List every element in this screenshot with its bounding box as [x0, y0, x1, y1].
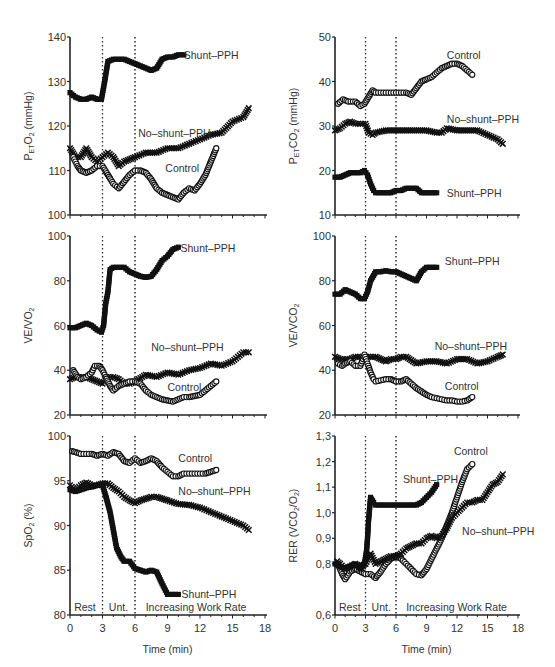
x-tick-label: 3 [99, 622, 105, 634]
phase-label: Unt. [109, 601, 128, 613]
series-label: Shunt–PPH [182, 588, 237, 600]
chart-panel-ve-vo2: 20406080100VE/VO2Shunt–PPHNo–shunt–PPHCo… [22, 230, 267, 421]
series-label: Shunt–PPH [184, 49, 239, 61]
x-axis-title: Time (min) [402, 643, 452, 655]
y-axis-title: PETCO2 (mmHg) [287, 88, 300, 164]
y-tick-label: 1,1 [316, 481, 331, 493]
series-label: No–shunt–PPH [435, 340, 507, 352]
y-tick-label: 40 [319, 364, 331, 376]
y-axis-title: VE/VCO2 [287, 304, 300, 348]
y-axis-title: SpO2 (%) [22, 503, 35, 547]
series-label: Shunt–PPH [447, 187, 502, 199]
series-label: No–shunt–PPH [138, 127, 210, 139]
series-label: No–shunt–PPH [462, 525, 534, 537]
series-label: Control [168, 381, 202, 393]
y-tick-label: 30 [319, 120, 331, 132]
series-label: Shunt–PPH [445, 255, 500, 267]
series-shunt-pph [332, 265, 439, 302]
x-tick-label: 9 [164, 622, 170, 634]
series-label: Control [178, 452, 212, 464]
x-tick-label: 12 [194, 622, 206, 634]
y-tick-label: 80 [319, 275, 331, 287]
phase-label: Rest [74, 601, 96, 613]
y-tick-label: 140 [48, 31, 66, 43]
y-tick-label: 60 [54, 320, 66, 332]
y-tick-label: 90 [54, 520, 66, 532]
x-tick-label: 15 [481, 622, 493, 634]
y-tick-label: 60 [319, 320, 331, 332]
x-tick-label: 18 [259, 622, 271, 634]
chart-panel-pet-co2: 1020304050PETCO2 (mmHg)ControlNo–shunt–P… [287, 31, 520, 221]
x-tick-label: 0 [67, 622, 73, 634]
series-no-shunt-pph [334, 472, 505, 572]
x-tick-label: 6 [132, 622, 138, 634]
series-shunt-pph [332, 168, 439, 195]
x-tick-label: 0 [332, 622, 338, 634]
y-tick-label: 100 [48, 430, 66, 442]
y-tick-label: 1,3 [316, 430, 331, 442]
y-tick-label: 40 [319, 76, 331, 88]
y-tick-label: 80 [54, 609, 66, 621]
series-label: Shunt–PPH [403, 473, 458, 485]
series-label: Control [447, 49, 481, 61]
chart-panel-ve-vco2: 20406080100VE/VCO2Shunt–PPHNo–shunt–PPHC… [287, 230, 520, 421]
phase-label: Unt. [372, 601, 391, 613]
y-tick-label: 120 [48, 120, 66, 132]
y-tick-label: 100 [48, 209, 66, 221]
chart-panel-rer: 0,60,80,91,01,11,21,30369121518Time (min… [287, 430, 534, 655]
y-tick-label: 100 [313, 230, 331, 242]
y-tick-label: 10 [319, 209, 331, 221]
y-tick-label: 1,2 [316, 456, 331, 468]
phase-label: Increasing Work Rate [406, 601, 507, 613]
series-label: No–shunt–PPH [447, 113, 519, 125]
y-tick-label: 20 [319, 409, 331, 421]
x-tick-label: 3 [362, 622, 368, 634]
series-control [335, 61, 474, 108]
y-tick-label: 1,0 [316, 507, 331, 519]
series-label: Control [454, 445, 488, 457]
chart-panel-pet-o2: 100110120130140PETO2 (mmHg)Shunt–PPHNo–s… [22, 31, 267, 221]
series-label: No–shunt–PPH [178, 485, 250, 497]
x-tick-label: 9 [423, 622, 429, 634]
x-tick-label: 12 [451, 622, 463, 634]
series-label: Control [165, 162, 199, 174]
y-tick-label: 20 [319, 165, 331, 177]
y-tick-label: 0,8 [316, 558, 331, 570]
y-tick-label: 85 [54, 564, 66, 576]
x-axis-title: Time (min) [143, 643, 193, 655]
y-axis-title: RER (VCO2/O2) [287, 489, 300, 563]
phase-label: Increasing Work Rate [146, 601, 247, 613]
figure-canvas: 100110120130140PETO2 (mmHg)Shunt–PPHNo–s… [0, 0, 555, 667]
x-tick-label: 15 [226, 622, 238, 634]
y-tick-label: 0,6 [316, 609, 331, 621]
y-tick-label: 130 [48, 76, 66, 88]
y-axis-title: PETO2 (mmHg) [22, 92, 35, 161]
chart-panel-spo2: 808590951000369121518Time (min)RestUnt.I… [22, 430, 271, 655]
y-axis-title: VE/VO2 [22, 307, 35, 343]
y-tick-label: 50 [319, 31, 331, 43]
y-tick-label: 20 [54, 409, 66, 421]
y-tick-label: 40 [54, 364, 66, 376]
series-label: No–shunt–PPH [151, 341, 223, 353]
x-tick-label: 18 [512, 622, 524, 634]
x-tick-label: 6 [393, 622, 399, 634]
series-label: Control [445, 380, 479, 392]
series-label: Shunt–PPH [181, 242, 236, 254]
series-shunt-pph [67, 52, 186, 102]
y-tick-label: 100 [48, 230, 66, 242]
phase-label: Rest [339, 601, 361, 613]
series-shunt-pph [67, 245, 181, 335]
y-tick-label: 0,9 [316, 532, 331, 544]
y-tick-label: 80 [54, 275, 66, 287]
y-tick-label: 110 [48, 165, 66, 177]
y-tick-label: 95 [54, 475, 66, 487]
